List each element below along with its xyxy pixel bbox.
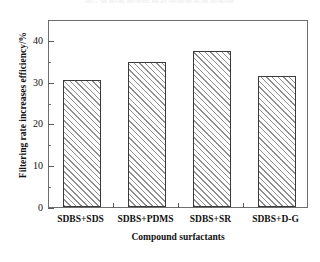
x-minor-tick: [81, 205, 82, 208]
y-tick-20: [48, 124, 54, 125]
y-tick-10: [48, 166, 54, 167]
y-minor-tick: [48, 62, 51, 63]
bar-chart-figure: 010203040 SDBS+SDSSDBS+PDMSSDBS+SRSDBS+D…: [0, 0, 320, 262]
y-minor-tick: [48, 187, 51, 188]
x-tick-label-sdbs-sds: SDBS+SDS: [48, 214, 113, 224]
x-minor-tick: [146, 205, 147, 208]
y-minor-tick: [48, 145, 51, 146]
bar-sdbs-sr: [193, 51, 231, 207]
x-tick-label-sdbs-d-g: SDBS+D-G: [243, 214, 308, 224]
bars-area: [49, 21, 307, 207]
plot-frame: [48, 20, 308, 208]
x-axis-title: Compound surfactants: [48, 232, 308, 242]
x-tick: [113, 203, 114, 208]
x-tick: [178, 203, 179, 208]
bar-sdbs-pdms: [128, 62, 166, 207]
x-tick-label-sdbs-pdms: SDBS+PDMS: [113, 214, 178, 224]
y-minor-tick: [48, 20, 51, 21]
y-tick-30: [48, 83, 54, 84]
bar-sdbs-d-g: [258, 76, 296, 207]
y-minor-tick: [48, 104, 51, 105]
y-axis-title: Filtering rate increases efficiency/%: [18, 5, 28, 205]
x-minor-tick: [211, 205, 212, 208]
bar-sdbs-sds: [63, 80, 101, 207]
y-tick-0: [48, 208, 54, 209]
y-tick-40: [48, 41, 54, 42]
x-tick-label-sdbs-sr: SDBS+SR: [178, 214, 243, 224]
x-minor-tick: [276, 205, 277, 208]
x-tick: [243, 203, 244, 208]
